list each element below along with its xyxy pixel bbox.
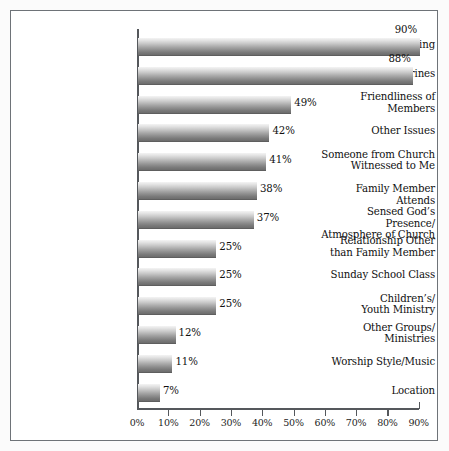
bar-chart-plot-area: 0%10%20%30%40%50%60%70%80%90% Pastor/Pre… bbox=[11, 11, 439, 442]
x-axis-tick bbox=[294, 409, 295, 416]
bar bbox=[138, 326, 176, 344]
bar-row: Family Member Attends38% bbox=[11, 177, 439, 205]
bar bbox=[138, 67, 413, 85]
bar-row: Friendliness ofMembers49% bbox=[11, 91, 439, 119]
category-label-line: Other Groups/ bbox=[315, 322, 435, 334]
category-label-line: Members bbox=[315, 103, 435, 115]
bar bbox=[138, 38, 420, 56]
x-axis-tick bbox=[262, 409, 263, 416]
category-label-line: Youth Ministry bbox=[315, 304, 435, 316]
x-axis-tick-label: 50% bbox=[277, 417, 311, 428]
bar-row: Worship Style/Music11% bbox=[11, 350, 439, 378]
bar-row: Someone from ChurchWitnessed to Me41% bbox=[11, 148, 439, 176]
bar-value-label: 41% bbox=[269, 154, 291, 165]
x-axis-tick bbox=[168, 409, 169, 416]
bar bbox=[138, 268, 216, 286]
bar-row: Relationship Otherthan Family Member25% bbox=[11, 235, 439, 263]
x-axis-tick-label: 10% bbox=[151, 417, 185, 428]
bar bbox=[138, 96, 291, 114]
bar-row: Sensed God’s Presence/Atmosphere of Chur… bbox=[11, 206, 439, 234]
bar-value-label-above: 88% bbox=[388, 53, 410, 64]
x-axis-line bbox=[137, 408, 419, 410]
category-label-line: Friendliness of bbox=[315, 91, 435, 103]
bar bbox=[138, 182, 257, 200]
category-label: Worship Style/Music bbox=[315, 356, 439, 368]
bar-row: Other Issues42% bbox=[11, 119, 439, 147]
bar bbox=[138, 211, 254, 229]
x-axis-tick-label: 30% bbox=[214, 417, 248, 428]
bar bbox=[138, 124, 269, 142]
category-label: Friendliness ofMembers bbox=[315, 91, 439, 114]
bar-value-label: 11% bbox=[175, 356, 197, 367]
chart-outer-frame: 0%10%20%30%40%50%60%70%80%90% Pastor/Pre… bbox=[0, 0, 449, 451]
category-label: Children’s/Youth Ministry bbox=[315, 293, 439, 316]
category-label-line: Family Member Attends bbox=[315, 183, 435, 206]
category-label-line: than Family Member bbox=[315, 247, 435, 259]
bar bbox=[138, 240, 216, 258]
bar-value-label: 7% bbox=[163, 385, 179, 396]
category-label-line: Sunday School Class bbox=[315, 269, 435, 281]
category-label: Other Issues bbox=[315, 125, 439, 137]
x-axis-tick bbox=[387, 409, 388, 416]
x-axis-tick bbox=[200, 409, 201, 416]
bar bbox=[138, 297, 216, 315]
category-label-line: Other Issues bbox=[315, 125, 435, 137]
category-label: Other Groups/Ministries bbox=[315, 322, 439, 345]
x-axis-tick-label: 20% bbox=[183, 417, 217, 428]
x-axis-tick bbox=[356, 409, 357, 416]
bar-value-label: 25% bbox=[219, 241, 241, 252]
bar-value-label: 42% bbox=[272, 125, 294, 136]
bar bbox=[138, 153, 266, 171]
bar-row: Children’s/Youth Ministry25% bbox=[11, 292, 439, 320]
x-axis-tick-label: 90% bbox=[402, 417, 436, 428]
x-axis-tick-label: 80% bbox=[370, 417, 404, 428]
bar-value-label: 25% bbox=[219, 269, 241, 280]
bar-row: Sunday School Class25% bbox=[11, 263, 439, 291]
bar-value-label: 38% bbox=[260, 183, 282, 194]
bar-value-label: 49% bbox=[294, 97, 316, 108]
bar-row: Location7% bbox=[11, 379, 439, 407]
bar bbox=[138, 384, 160, 402]
category-label-line: Witnessed to Me bbox=[315, 160, 435, 172]
x-axis-tick-label: 60% bbox=[308, 417, 342, 428]
category-label: Someone from ChurchWitnessed to Me bbox=[315, 149, 439, 172]
category-label-line: Location bbox=[315, 385, 435, 397]
category-label: Sunday School Class bbox=[315, 269, 439, 281]
x-axis-tick-label: 0% bbox=[120, 417, 154, 428]
bar-row: Doctrines88% bbox=[11, 62, 439, 90]
x-axis-tick-label: 70% bbox=[339, 417, 373, 428]
x-axis-tick bbox=[325, 409, 326, 416]
bar-value-label-above: 90% bbox=[395, 24, 417, 35]
bar-row: Pastor/Preaching90% bbox=[11, 33, 439, 61]
category-label-line: Someone from Church bbox=[315, 149, 435, 161]
x-axis-tick-label: 40% bbox=[245, 417, 279, 428]
category-label-line: Relationship Other bbox=[315, 235, 435, 247]
category-label-line: Ministries bbox=[315, 333, 435, 345]
category-label-line: Children’s/ bbox=[315, 293, 435, 305]
category-label: Relationship Otherthan Family Member bbox=[315, 235, 439, 258]
bar-row: Other Groups/Ministries12% bbox=[11, 321, 439, 349]
category-label: Location bbox=[315, 385, 439, 397]
category-label-line: Sensed God’s Presence/ bbox=[315, 206, 435, 229]
category-label-line: Worship Style/Music bbox=[315, 356, 435, 368]
bar-value-label: 37% bbox=[257, 212, 279, 223]
bar-value-label: 12% bbox=[179, 327, 201, 338]
x-axis-tick bbox=[231, 409, 232, 416]
category-label: Family Member Attends bbox=[315, 183, 439, 206]
bar bbox=[138, 355, 172, 373]
chart-inner-frame: 0%10%20%30%40%50%60%70%80%90% Pastor/Pre… bbox=[10, 10, 438, 441]
bar-value-label: 25% bbox=[219, 298, 241, 309]
